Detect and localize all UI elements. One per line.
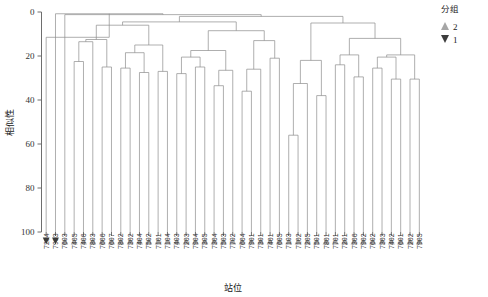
dendrogram-link — [96, 25, 148, 45]
dendrogram-link — [125, 53, 144, 73]
x-tick-label: 7306 — [351, 233, 358, 249]
x-tick-label: 7302 — [127, 233, 134, 249]
x-tick-label: 7303 — [379, 233, 386, 249]
x-axis-title: 站位 — [224, 282, 242, 293]
dendrogram-link — [214, 86, 223, 232]
x-tick-label: 7204 — [43, 233, 50, 249]
x-tick-label: 7103 — [285, 233, 292, 249]
x-tick-label: 7205 — [304, 233, 311, 249]
x-tick-label: 7702 — [229, 233, 236, 249]
x-tick-label: 7802 — [117, 233, 124, 249]
legend-label-2: 2 — [453, 22, 458, 32]
x-tick-label: 7905 — [416, 233, 423, 249]
x-tick-label: 7402 — [388, 233, 395, 249]
x-tick-label: 7101 — [155, 233, 162, 249]
dendrogram-link — [135, 45, 163, 71]
y-tick-label: 100 — [21, 227, 35, 237]
legend-label-1: 1 — [453, 35, 458, 45]
dendrogram-link — [195, 67, 204, 232]
x-tick-label: 7602 — [369, 233, 376, 249]
dendrogram-link — [335, 65, 344, 232]
dendrogram-link — [86, 40, 107, 68]
dendrogram-link — [123, 22, 237, 31]
legend-marker-1 — [441, 35, 449, 43]
y-tick-label: 0 — [30, 7, 35, 17]
x-tick-label: 7305 — [201, 233, 208, 249]
dendrogram-link — [349, 38, 400, 55]
dendrogram-link — [254, 41, 275, 70]
x-tick-label: 7406 — [80, 233, 87, 249]
x-tick-label: 7404 — [136, 233, 143, 249]
x-tick-label: 7201 — [341, 233, 348, 249]
x-tick-label: 7503 — [220, 233, 227, 249]
x-tick-label: 7903 — [52, 233, 59, 249]
dendrogram-link — [340, 55, 359, 77]
legend-marker-2 — [441, 22, 449, 30]
x-tick-label: 7607 — [108, 233, 115, 249]
dendrogram-link — [391, 79, 400, 232]
x-tick-label: 7801 — [323, 233, 330, 249]
legend-title: 分组 — [441, 4, 459, 14]
x-tick-label: 7403 — [173, 233, 180, 249]
x-tick-label: 7606 — [99, 233, 106, 249]
dendrogram-link — [293, 84, 307, 233]
x-tick-label: 7202 — [407, 233, 414, 249]
x-tick-label: 7603 — [61, 233, 68, 249]
dendrogram-link — [270, 58, 279, 232]
dendrogram-link — [158, 71, 167, 232]
dendrogram-link — [300, 60, 321, 95]
y-tick-label: 40 — [26, 95, 36, 105]
dendrogram-chart: 020406080100相似性7204790376037405740678037… — [0, 0, 488, 297]
dendrogram-link — [102, 67, 111, 232]
dendrogram-link — [387, 55, 415, 79]
y-axis-title: 相似性 — [4, 109, 15, 136]
x-tick-label: 7401 — [267, 233, 274, 249]
x-tick-label: 7301 — [257, 233, 264, 249]
x-tick-label: 7902 — [360, 233, 367, 249]
x-tick-label: 7102 — [295, 233, 302, 249]
x-tick-label: 7104 — [164, 233, 171, 249]
dendrogram-link — [354, 77, 363, 232]
dendrogram-link — [219, 70, 233, 232]
dendrogram-link — [242, 91, 251, 232]
x-tick-label: 7501 — [313, 233, 320, 249]
dendrogram-link — [79, 42, 93, 232]
x-tick-label: 7605 — [276, 233, 283, 249]
dendrogram-link — [181, 57, 200, 74]
dendrogram-link — [139, 73, 148, 233]
x-tick-label: 7803 — [89, 233, 96, 249]
dendrogram-link — [317, 96, 326, 232]
dendrogram-link — [289, 135, 298, 232]
dendrogram-link — [410, 79, 419, 232]
dendrogram-link — [55, 14, 163, 232]
y-tick-label: 80 — [26, 183, 36, 193]
dendrogram-link — [177, 74, 186, 232]
x-tick-label: 7601 — [397, 233, 404, 249]
y-tick-label: 20 — [26, 51, 36, 61]
dendrogram-link — [74, 62, 83, 233]
x-tick-label: 7904 — [192, 233, 199, 249]
y-tick-label: 60 — [26, 139, 36, 149]
dendrogram-svg: 020406080100相似性7204790376037405740678037… — [0, 0, 488, 297]
dendrogram-link — [121, 68, 130, 232]
x-tick-label: 7901 — [248, 233, 255, 249]
x-tick-label: 7701 — [332, 233, 339, 249]
x-tick-label: 7604 — [239, 233, 246, 249]
dendrogram-link — [247, 69, 261, 232]
x-tick-label: 7203 — [183, 233, 190, 249]
dendrogram-link — [373, 68, 382, 232]
x-tick-label: 7405 — [71, 233, 78, 249]
x-tick-label: 7502 — [145, 233, 152, 249]
x-tick-label: 7304 — [211, 233, 218, 249]
